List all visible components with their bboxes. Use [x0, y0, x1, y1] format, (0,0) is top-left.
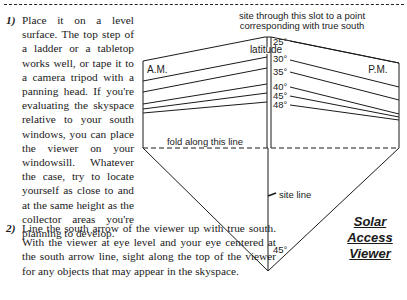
- am-label: A.M.: [147, 64, 168, 75]
- latitude-mark-35: 35°: [273, 66, 288, 77]
- site-line-label: site line: [279, 189, 311, 200]
- am-panel-outline: [143, 37, 265, 148]
- latitude-mark-25: 25°: [273, 36, 288, 47]
- fold-label: fold along this line: [167, 136, 243, 147]
- diagram-title: Solar Access Viewer: [340, 214, 400, 262]
- latitude-mark-30: 30°: [273, 53, 288, 64]
- pm-label: P.M.: [368, 64, 387, 75]
- latitude-mark-48: 48°: [273, 99, 288, 110]
- slot-caption-line2: corresponding with true south: [240, 20, 365, 31]
- angle-label: 45°: [273, 244, 288, 255]
- site-line-pointer: [268, 193, 276, 196]
- pm-panel-outline: [271, 37, 399, 148]
